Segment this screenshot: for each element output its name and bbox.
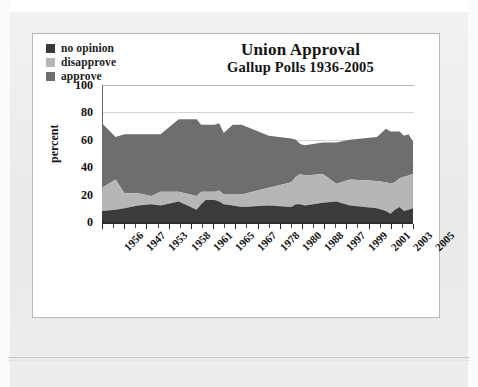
chart-title: Union Approval <box>173 40 428 59</box>
x-tick-mark <box>269 224 270 228</box>
x-tick-label: 1961 <box>210 229 234 253</box>
chart-subtitle: Gallup Polls 1936-2005 <box>173 59 428 76</box>
page-top-margin <box>0 0 478 12</box>
x-tick-label: 1958 <box>188 229 212 253</box>
x-tick-label: 1999 <box>366 229 390 253</box>
x-tick-label: 2003 <box>410 229 434 253</box>
x-tick-mark <box>335 224 336 228</box>
x-tick-label: 1997 <box>344 229 368 253</box>
x-tick-label: 1978 <box>277 229 301 253</box>
x-tick-mark <box>135 224 136 228</box>
x-tick-mark <box>180 224 181 228</box>
x-axis-labels: 1956194719531958196119651967197819801988… <box>102 229 413 284</box>
x-tick-label: 1967 <box>255 229 279 253</box>
legend-swatch-no-opinion <box>46 44 55 53</box>
chart-card: no opinion disapprove approve Union Appr… <box>32 33 440 318</box>
chart-title-block: Union Approval Gallup Polls 1936-2005 <box>173 40 428 76</box>
legend-label-disapprove: disapprove <box>61 56 116 69</box>
x-tick-mark <box>158 224 159 228</box>
x-tick-label: 1980 <box>299 229 323 253</box>
x-tick-mark <box>313 224 314 228</box>
x-tick-label: 1947 <box>144 229 168 253</box>
y-tick-label: 80 <box>81 106 93 118</box>
y-tick-label: 40 <box>81 161 93 173</box>
y-tick-label: 20 <box>81 189 93 201</box>
x-tick-mark <box>224 224 225 228</box>
page-divider-shadow <box>8 360 470 361</box>
y-tick-label: 0 <box>87 216 93 228</box>
page-left-margin <box>0 0 10 387</box>
x-tick-mark <box>246 224 247 228</box>
legend-label-no-opinion: no opinion <box>61 42 114 55</box>
x-tick-mark <box>202 224 203 228</box>
legend-swatch-approve <box>46 72 55 81</box>
legend-item-disapprove: disapprove <box>46 56 116 69</box>
x-tick-label: 1965 <box>233 229 257 253</box>
x-tick-mark <box>402 224 403 228</box>
x-tick-mark <box>357 224 358 228</box>
y-tick-label: 60 <box>81 134 93 146</box>
stacked-area-plot <box>102 85 413 222</box>
page-divider <box>8 357 470 358</box>
x-tick-label: 1988 <box>321 229 345 253</box>
plot-area: percent 020406080100 1956194719531958196… <box>49 85 427 310</box>
legend-item-no-opinion: no opinion <box>46 42 116 55</box>
x-tick-label: 1953 <box>166 229 190 253</box>
x-tick-mark <box>380 224 381 228</box>
x-tick-label: 2001 <box>388 229 412 253</box>
x-tick-mark <box>413 224 414 229</box>
x-tick-label: 1956 <box>121 229 145 253</box>
y-tick-label: 100 <box>75 79 93 91</box>
y-axis-ticks: 020406080100 <box>63 85 97 222</box>
y-axis-label: percent <box>47 125 62 163</box>
x-tick-mark <box>113 224 114 228</box>
page-right-margin <box>468 0 478 387</box>
legend-swatch-disapprove <box>46 58 55 67</box>
x-tick-mark <box>291 224 292 228</box>
